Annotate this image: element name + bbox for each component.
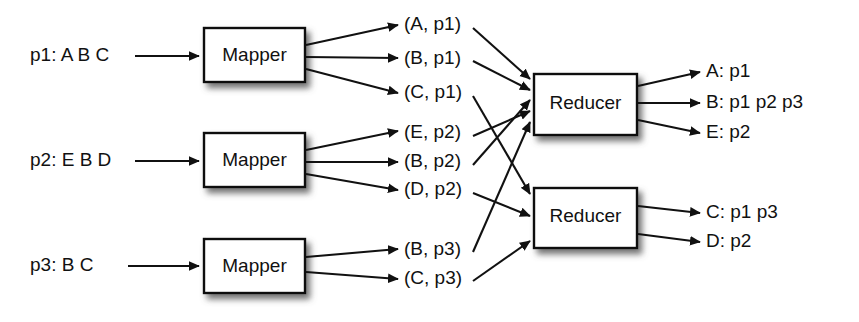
edge-mapper1-to-pair-a-p1 [306,25,398,45]
mapreduce-diagram: p1: A B C p2: E B D p3: B C Mapper Mappe… [0,0,859,322]
pair-label-a-p1: (A, p1) [404,13,461,34]
edge-mapper1-to-pair-b-p1 [306,57,398,58]
pair-label-b-p2: (B, p2) [404,150,461,171]
pair-label-b-p3: (B, p3) [404,238,461,259]
edge-c-p3-to-reducer2 [473,241,530,281]
input-label-p3: p3: B C [30,254,93,275]
mapper-boxes-group: Mapper Mapper Mapper [204,28,305,293]
edge-mapper2-to-pair-d-p2 [306,174,398,190]
mapper-to-pair-edges [306,25,398,279]
reducer-label-2: Reducer [550,205,622,226]
intermediate-pair-labels-group: (A, p1) (B, p1) (C, p1) (E, p2) (B, p2) … [404,13,462,288]
edge-mapper3-to-pair-c-p3 [306,272,398,279]
edge-d-p2-to-reducer2 [473,193,530,216]
shuffle-edges-group [473,28,530,281]
pair-label-c-p1: (C, p1) [404,81,462,102]
edge-mapper1-to-pair-c-p1 [306,69,398,93]
edge-b-p3-to-reducer1 [473,122,530,252]
edge-reducer1-to-output-e [638,120,700,133]
edge-a-p1-to-reducer1 [473,28,530,79]
output-label-e: E: p2 [706,121,750,142]
pair-label-c-p3: (C, p3) [404,267,462,288]
edge-reducer2-to-output-c [638,206,700,213]
mapper-label-1: Mapper [222,44,287,65]
edge-reducer2-to-output-d [638,234,700,242]
input-label-p2: p2: E B D [30,149,111,170]
mapper-node-1[interactable]: Mapper [204,28,305,82]
reducer-label-1: Reducer [550,92,622,113]
output-labels-group: A: p1 B: p1 p2 p3 E: p2 C: p1 p3 D: p2 [706,60,803,251]
edge-reducer1-to-output-a [638,72,700,86]
output-label-c: C: p1 p3 [706,201,778,222]
pair-label-e-p2: (E, p2) [404,121,461,142]
pair-label-d-p2: (D, p2) [404,178,462,199]
output-label-d: D: p2 [706,230,751,251]
reducer-to-output-edges [638,72,700,242]
input-label-p1: p1: A B C [30,44,109,65]
input-labels-group: p1: A B C p2: E B D p3: B C [30,44,111,275]
pair-label-b-p1: (B, p1) [404,47,461,68]
mapper-label-2: Mapper [222,149,287,170]
output-label-b: B: p1 p2 p3 [706,91,803,112]
edge-mapper3-to-pair-b-p3 [306,249,398,257]
input-to-mapper-edges [128,56,199,266]
output-label-a: A: p1 [706,60,750,81]
reducer-node-2[interactable]: Reducer [534,188,637,248]
mapper-node-3[interactable]: Mapper [204,239,305,293]
edge-b-p1-to-reducer1 [473,61,530,90]
diagram-canvas: p1: A B C p2: E B D p3: B C Mapper Mappe… [0,0,859,322]
mapper-node-2[interactable]: Mapper [204,133,305,187]
edge-mapper2-to-pair-e-p2 [306,131,398,150]
mapper-label-3: Mapper [222,255,287,276]
reducer-boxes-group: Reducer Reducer [534,74,637,248]
reducer-node-1[interactable]: Reducer [534,74,637,135]
